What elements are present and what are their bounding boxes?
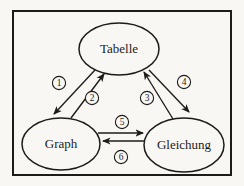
edge-number-label-5: 5 bbox=[120, 117, 125, 127]
node-label-graph: Graph bbox=[45, 136, 78, 151]
edge-number-label-6: 6 bbox=[119, 152, 124, 162]
node-label-tabelle: Tabelle bbox=[100, 41, 138, 56]
figure-scan: TabelleGraphGleichung123456 bbox=[0, 0, 244, 186]
edge-number-label-3: 3 bbox=[145, 93, 150, 103]
node-label-gleichung: Gleichung bbox=[157, 137, 212, 152]
diagram-canvas: TabelleGraphGleichung123456 bbox=[0, 0, 244, 186]
edge-number-label-2: 2 bbox=[90, 93, 95, 103]
edge-number-label-4: 4 bbox=[182, 77, 187, 87]
edge-number-label-1: 1 bbox=[57, 78, 62, 88]
